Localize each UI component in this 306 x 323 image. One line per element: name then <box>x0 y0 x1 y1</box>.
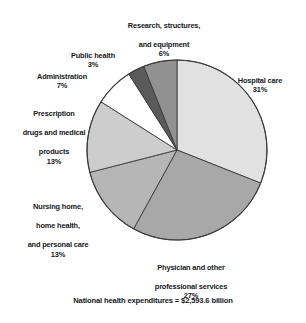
slice-label-nursing-line1: Nursing home, <box>33 202 83 211</box>
pie-chart-figure: Hospital care 31% Research, structures, … <box>0 0 306 323</box>
slice-label-prescription-percent: 13% <box>10 157 98 167</box>
slice-label-hospital-care: Hospital care 31% <box>222 66 298 104</box>
slice-label-physician-line1: Physician and other <box>157 263 224 272</box>
slice-label-nursing-line2: home health, <box>36 221 80 230</box>
slice-label-prescription-line2: drugs and medical <box>23 128 86 137</box>
slice-label-research-percent: 6% <box>118 49 210 59</box>
slice-label-research-line1: Research, structures, <box>128 21 200 30</box>
slice-label-hospital-care-text: Hospital care <box>238 76 282 85</box>
slice-label-prescription-drugs: Prescription drugs and medical products … <box>10 99 98 176</box>
slice-label-administration: Administration 7% <box>22 62 102 100</box>
slice-label-physician-line2: professional services <box>155 282 227 291</box>
slice-label-hospital-care-percent: 31% <box>222 85 298 95</box>
slice-label-prescription-line3: products <box>39 147 69 156</box>
slice-label-nursing-home: Nursing home, home health, and personal … <box>8 192 108 269</box>
slice-label-nursing-percent: 13% <box>8 250 108 260</box>
slice-label-public-health-text: Public health <box>71 51 115 60</box>
slice-label-administration-text: Administration <box>37 72 87 81</box>
chart-footnote: National health expenditures = $2,593.6 … <box>0 296 306 305</box>
slice-label-administration-percent: 7% <box>22 81 102 91</box>
slice-label-research-structures-equipment: Research, structures, and equipment 6% <box>118 11 210 69</box>
slice-label-nursing-line3: and personal care <box>28 240 89 249</box>
slice-label-prescription-line1: Prescription <box>33 109 74 118</box>
slice-label-research-line2: and equipment <box>139 40 190 49</box>
